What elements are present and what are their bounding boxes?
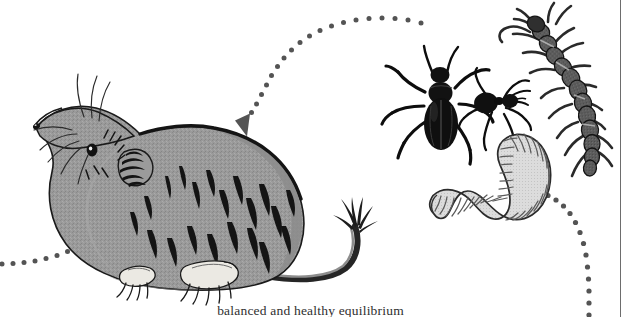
shrew-ear [118, 149, 153, 187]
dotted-arrow-to-shrew [235, 16, 424, 137]
illustration-layer [0, 0, 621, 317]
shrew-illustration [32, 74, 378, 305]
shrew-front-foot [117, 266, 155, 300]
shrew-hind-foot [181, 261, 239, 305]
figure-canvas: balanced and healthy equilibrium [0, 0, 621, 317]
